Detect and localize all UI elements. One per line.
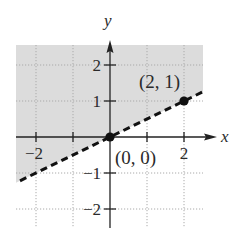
y-tick-label: −2 <box>83 200 101 219</box>
data-point <box>105 132 114 141</box>
x-tick-label: −2 <box>25 144 43 163</box>
point-label-origin: (0, 0) <box>115 147 156 169</box>
data-point <box>179 96 188 105</box>
y-tick-label: −1 <box>83 164 101 183</box>
x-axis-label: x <box>220 127 229 146</box>
point-label-2-1: (2, 1) <box>139 71 180 93</box>
x-tick-label: 2 <box>180 144 189 163</box>
y-tick-label: 1 <box>93 92 102 111</box>
y-axis-label: y <box>102 11 112 30</box>
y-tick-label: 2 <box>93 56 102 75</box>
inequality-graph: −2221−1−2xy(0, 0)(2, 1) <box>0 0 235 238</box>
